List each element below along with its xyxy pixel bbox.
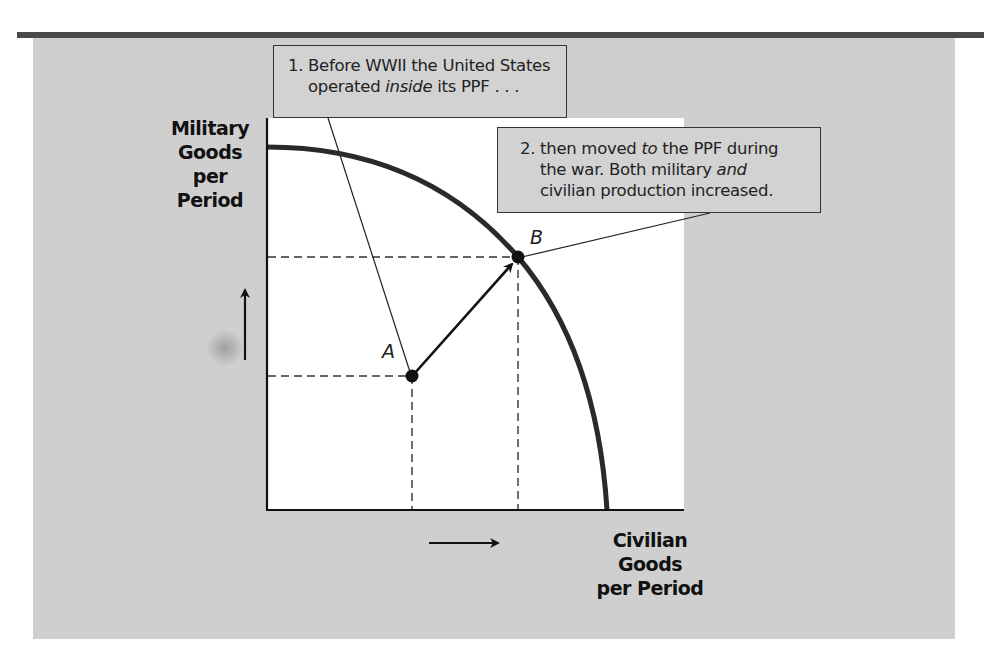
callout2-line2-emphasis: and xyxy=(717,160,747,179)
callout1-line2-pre: operated xyxy=(308,77,385,96)
point-a-label: A xyxy=(382,340,395,362)
callout1-line2-emphasis: inside xyxy=(385,77,432,96)
point-b-label: B xyxy=(530,226,543,248)
callout2-line2: the war. Both military and xyxy=(520,159,778,180)
y-axis-label-line4: Period xyxy=(155,188,265,212)
callout2-line1: 2. then moved to the PPF during xyxy=(520,138,778,159)
dashed-guides xyxy=(268,257,518,509)
callout2-line3: civilian production increased. xyxy=(520,180,778,201)
x-axis-label-line2: Goods xyxy=(580,552,720,576)
point-b xyxy=(512,251,525,264)
callout2-line1-pre: 2. then moved xyxy=(520,139,641,158)
callout2-line1-post: the PPF during xyxy=(657,139,778,158)
x-axis-label: Civilian Goods per Period xyxy=(580,528,720,600)
y-axis-label-line1: Military xyxy=(155,116,265,140)
x-axis-label-line1: Civilian xyxy=(580,528,720,552)
callout2-line1-emphasis: to xyxy=(641,139,657,158)
callout1-line2: operated inside its PPF . . . xyxy=(288,76,550,97)
point-a xyxy=(406,370,419,383)
callout-during-war: 2. then moved to the PPF during the war.… xyxy=(497,127,821,213)
callout-before-wwii: 1. Before WWII the United States operate… xyxy=(273,45,567,118)
y-axis-label: Military Goods per Period xyxy=(155,116,265,212)
y-axis-label-line3: per xyxy=(155,164,265,188)
leader-line-callout2 xyxy=(522,213,710,257)
callout1-line1: 1. Before WWII the United States xyxy=(288,55,550,76)
movement-arrow xyxy=(414,264,512,374)
callout2-line2-pre: the war. Both military xyxy=(540,160,717,179)
y-axis-label-line2: Goods xyxy=(155,140,265,164)
callout1-line2-post: its PPF . . . xyxy=(432,77,519,96)
x-axis-label-line3: per Period xyxy=(580,576,720,600)
